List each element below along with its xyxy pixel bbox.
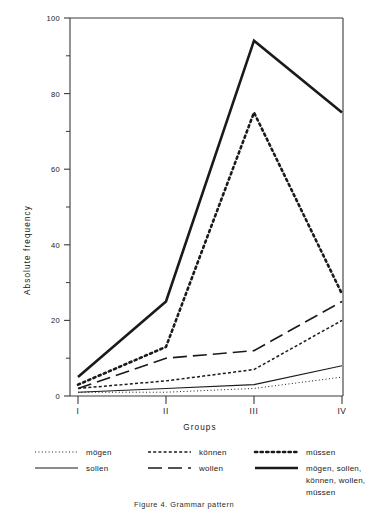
y-tick-label: 60 — [51, 165, 60, 174]
legend-label-mogen: mögen — [86, 448, 112, 457]
x-tick-label: III — [250, 406, 259, 416]
legend-label-sollen: sollen — [86, 464, 108, 473]
series-line-thin-solid — [78, 366, 342, 392]
legend: mögen können müssen sollen wollen mögen,… — [35, 448, 365, 497]
series-line-fine-dotted — [78, 377, 342, 392]
x-tick-label: I — [77, 406, 80, 416]
y-axis-title: Absolute frequency — [23, 205, 32, 295]
series-layer — [78, 41, 342, 393]
y-tick-label: 100 — [46, 14, 60, 23]
y-tick-label: 0 — [55, 392, 60, 401]
line-chart: 100 80 60 40 20 0 Absolute frequency I I… — [0, 0, 369, 510]
legend-label-konnen: können — [199, 448, 227, 457]
y-tick-label: 80 — [51, 90, 60, 99]
figure-caption: Figure 4. Grammar pattern — [134, 500, 234, 509]
y-tick-label: 20 — [51, 316, 60, 325]
y-ticks-minor — [66, 56, 70, 358]
series-line-dash-dot — [78, 320, 342, 388]
y-tick-label: 40 — [51, 241, 60, 250]
y-tick-labels: 100 80 60 40 20 0 — [46, 14, 60, 401]
figure-container: 100 80 60 40 20 0 Absolute frequency I I… — [0, 0, 369, 510]
series-line-bold-solid — [78, 41, 342, 377]
legend-label-combined-1: mögen, sollen, — [306, 464, 362, 473]
legend-label-mussen: müssen — [306, 448, 336, 457]
x-tick-label: IV — [337, 406, 346, 416]
x-axis-title: Groups — [183, 423, 216, 432]
x-tick-label: II — [163, 406, 169, 416]
x-tick-labels: I II III IV — [77, 406, 347, 416]
x-ticks — [78, 396, 342, 404]
legend-label-combined-2: können, wollen, — [306, 476, 365, 485]
legend-label-combined-3: müssen — [306, 488, 336, 497]
legend-label-wollen: wollen — [198, 464, 223, 473]
